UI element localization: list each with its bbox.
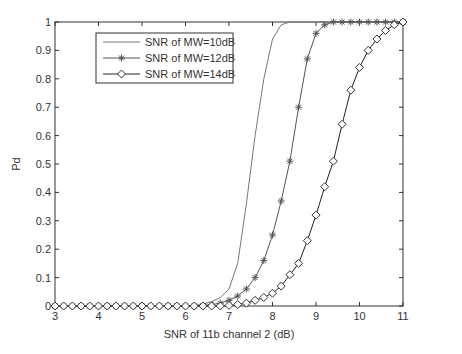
star-marker-icon [118, 55, 125, 62]
legend-label: SNR of MW=12dB [145, 52, 235, 64]
star-marker-icon [260, 257, 267, 264]
y-axis-label: Pd [10, 157, 22, 170]
y-tick-label: 0.4 [36, 186, 51, 198]
y-tick-label: 0.1 [36, 272, 51, 284]
y-tick-label: 0.5 [36, 158, 51, 170]
y-tick-label: 0.8 [36, 73, 51, 85]
star-marker-icon [330, 19, 337, 26]
y-tick-label: 0.7 [36, 101, 51, 113]
x-tick-label: 7 [226, 310, 232, 322]
star-marker-icon [347, 19, 354, 26]
legend-label: SNR of MW=14dB [145, 68, 235, 80]
star-marker-icon [356, 19, 363, 26]
star-marker-icon [339, 19, 346, 26]
x-tick-label: 10 [353, 310, 365, 322]
star-marker-icon [286, 158, 293, 165]
star-marker-icon [295, 104, 302, 111]
star-marker-icon [313, 30, 320, 37]
star-marker-icon [304, 55, 311, 62]
star-marker-icon [321, 21, 328, 28]
star-marker-icon [382, 19, 389, 26]
x-tick-label: 5 [139, 310, 145, 322]
pd-vs-snr-chart: 3456789101100.10.20.30.40.50.60.70.80.91… [0, 0, 462, 354]
star-marker-icon [243, 285, 250, 292]
star-marker-icon [234, 293, 241, 300]
y-tick-label: 0 [45, 300, 51, 312]
star-marker-icon [365, 19, 372, 26]
x-tick-label: 9 [313, 310, 319, 322]
x-axis-label: SNR of 11b channel 2 (dB) [164, 328, 295, 340]
x-tick-label: 11 [397, 310, 408, 322]
x-tick-label: 6 [182, 310, 188, 322]
x-tick-label: 3 [52, 310, 58, 322]
y-tick-label: 0.6 [36, 130, 51, 142]
legend-label: SNR of MW=10dB [145, 36, 235, 48]
star-marker-icon [252, 274, 259, 281]
y-tick-label: 1 [45, 16, 51, 28]
y-tick-label: 0.2 [36, 243, 51, 255]
x-tick-label: 4 [95, 310, 101, 322]
legend: SNR of MW=10dBSNR of MW=12dBSNR of MW=14… [96, 33, 235, 83]
y-tick-label: 0.9 [36, 44, 51, 56]
star-marker-icon [278, 197, 285, 204]
star-marker-icon [373, 19, 380, 26]
y-tick-label: 0.3 [36, 215, 51, 227]
star-marker-icon [269, 232, 276, 239]
x-tick-label: 8 [269, 310, 275, 322]
